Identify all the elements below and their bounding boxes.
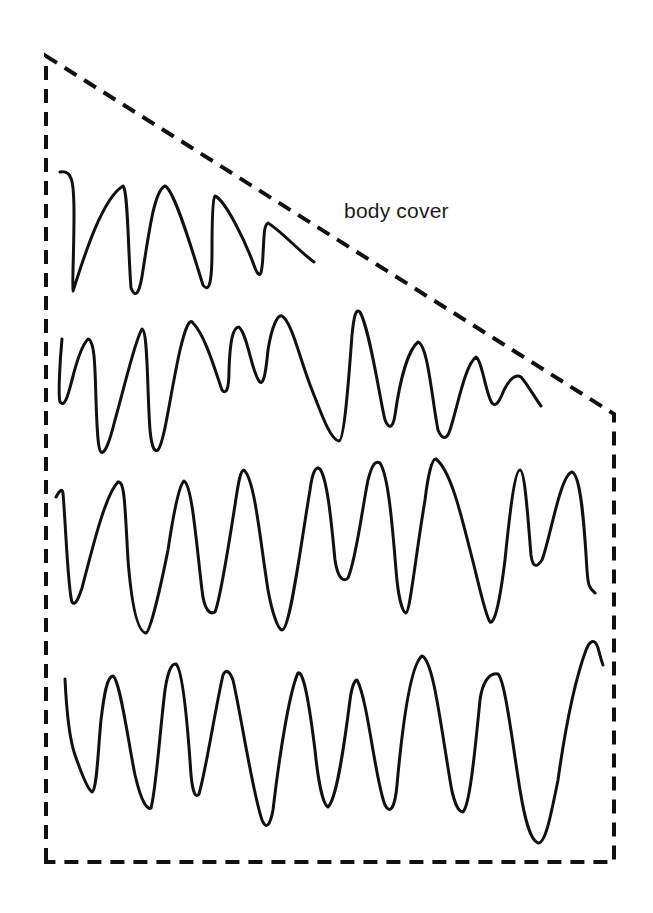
waveform-4 xyxy=(65,641,603,843)
waveform-3 xyxy=(56,459,595,633)
waveform-2 xyxy=(59,311,541,452)
body-cover-outline xyxy=(46,56,614,862)
body-cover-diagram: body cover xyxy=(0,0,653,913)
waveform-1 xyxy=(60,172,314,294)
body-cover-label: body cover xyxy=(344,199,449,223)
